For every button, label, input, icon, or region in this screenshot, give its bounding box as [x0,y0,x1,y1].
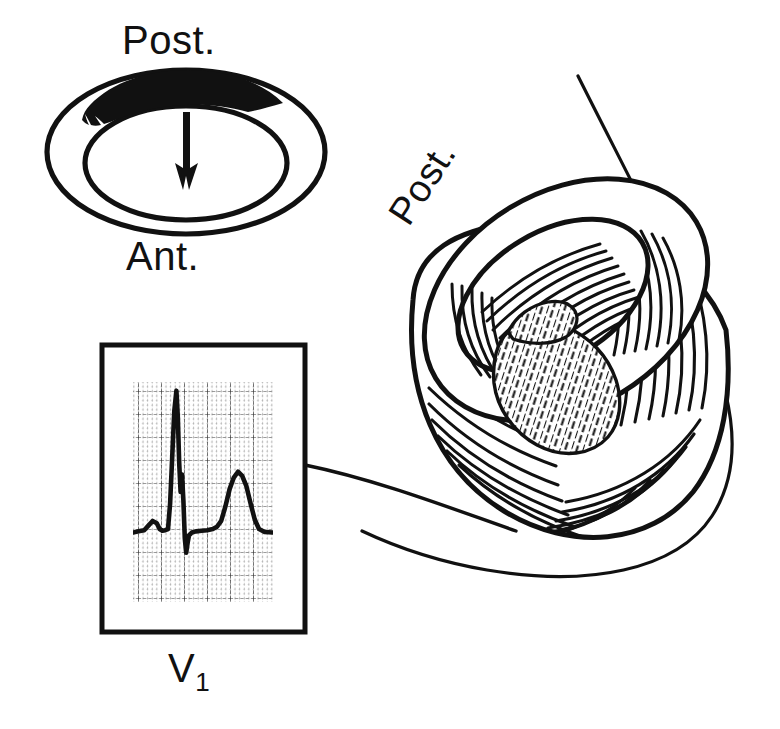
ecg-lead-subscript: 1 [195,667,210,697]
ecg-lead-label: V1 [168,648,210,695]
ecg-lead-name: V [168,646,195,690]
figure-root: Post. Ant. Post. V1 [0,0,780,729]
ring-anterior-label: Ant. [126,236,199,276]
ring-diagram [47,70,325,234]
illustration-canvas [0,0,780,729]
ecg-panel [102,345,305,632]
ecg-grid [133,382,273,602]
ring-posterior-label: Post. [122,20,216,60]
